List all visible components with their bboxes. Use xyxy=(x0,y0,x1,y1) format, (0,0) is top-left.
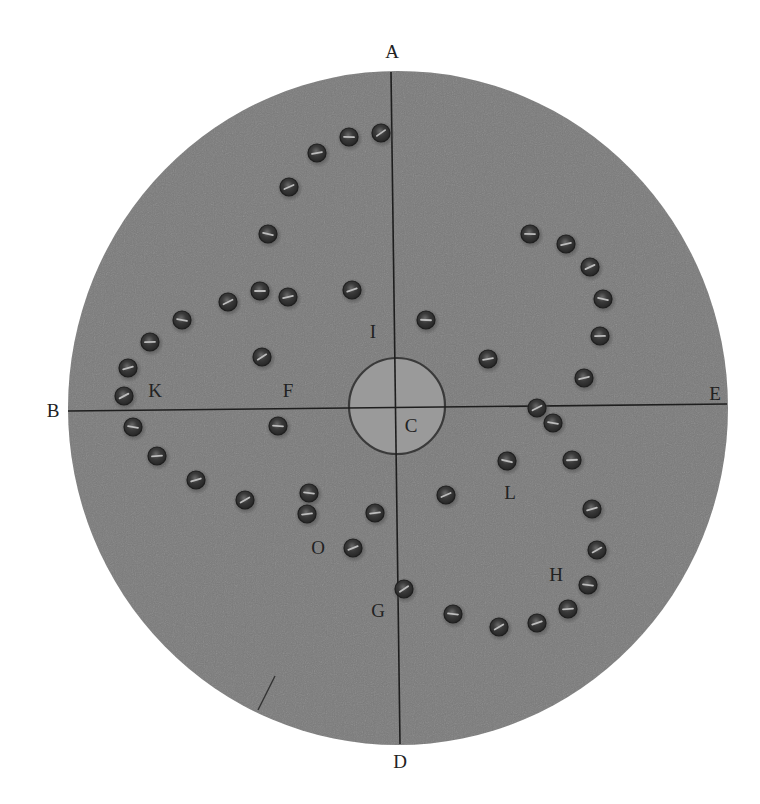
screw-icon xyxy=(541,412,567,438)
screw-icon xyxy=(578,256,604,282)
label-i: I xyxy=(370,322,376,341)
plate-figure: A B C D E F G H I K L O xyxy=(0,0,760,804)
screw-slot xyxy=(448,613,458,614)
screw-icon xyxy=(248,280,274,306)
screw-icon xyxy=(112,385,138,411)
screw-icon xyxy=(305,142,331,168)
label-c: C xyxy=(405,416,418,435)
label-e: E xyxy=(709,384,721,403)
screw-icon xyxy=(434,484,460,510)
screw-icon xyxy=(256,223,282,249)
screw-slot xyxy=(152,456,162,457)
label-d: D xyxy=(393,752,407,771)
center-hole xyxy=(349,358,445,454)
screw-icon xyxy=(337,126,363,152)
screw-icon xyxy=(216,291,242,317)
screw-icon xyxy=(340,279,366,305)
screw-icon xyxy=(554,233,580,259)
label-o: O xyxy=(311,538,325,557)
screw-slot xyxy=(302,513,312,514)
label-h: H xyxy=(549,565,563,584)
screw-icon xyxy=(441,603,467,629)
screw-icon xyxy=(414,309,440,335)
screw-icon xyxy=(369,122,395,148)
screw-icon xyxy=(585,539,611,565)
screw-slot xyxy=(567,460,577,461)
screw-icon xyxy=(266,415,292,441)
screw-icon xyxy=(476,348,502,374)
screw-slot xyxy=(563,609,573,610)
screw-icon xyxy=(588,325,614,351)
screw-icon xyxy=(363,502,389,528)
screw-icon xyxy=(170,309,196,335)
screw-icon xyxy=(277,176,303,202)
label-l: L xyxy=(504,483,516,502)
screw-icon xyxy=(295,503,321,529)
screw-icon xyxy=(116,357,142,383)
screw-icon xyxy=(576,574,602,600)
screw-icon xyxy=(138,331,164,357)
screw-icon xyxy=(560,449,586,475)
plate-diagram-svg xyxy=(0,0,760,804)
screw-slot xyxy=(304,492,314,493)
screw-icon xyxy=(580,498,606,524)
screw-slot xyxy=(421,320,431,321)
screw-icon xyxy=(145,445,171,471)
screw-icon xyxy=(556,598,582,624)
screw-icon xyxy=(250,346,276,372)
label-a: A xyxy=(385,42,399,61)
label-g: G xyxy=(371,601,385,620)
screw-icon xyxy=(276,286,302,312)
label-f: F xyxy=(283,381,294,400)
screw-icon xyxy=(184,469,210,495)
screw-slot xyxy=(273,426,283,427)
screw-icon xyxy=(487,616,513,642)
screw-icon xyxy=(495,450,521,476)
screw-icon xyxy=(518,223,544,249)
screw-icon xyxy=(233,489,259,515)
center-hole-circle xyxy=(349,358,445,454)
screw-icon xyxy=(341,537,367,563)
screw-icon xyxy=(392,578,418,604)
screw-icon xyxy=(121,416,147,442)
screw-icon xyxy=(591,288,617,314)
label-k: K xyxy=(148,381,162,400)
screw-icon xyxy=(525,612,551,638)
label-b: B xyxy=(47,401,60,420)
screw-icon xyxy=(572,367,598,393)
